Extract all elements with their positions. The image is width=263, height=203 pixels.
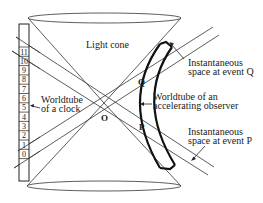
clock-tick-label: 2 bbox=[22, 131, 26, 140]
clock-worldtube: 11 10 9 8 7 6 5 4 3 2 1 0 bbox=[19, 24, 29, 181]
space-q-label-line2: space at event Q bbox=[188, 66, 255, 77]
clock-tick-label: 4 bbox=[22, 113, 26, 122]
observer-worldtube-label-line2: accelerating observer bbox=[153, 100, 239, 111]
clock-tick-label: 7 bbox=[22, 85, 26, 94]
clock-tick-label: 3 bbox=[22, 122, 26, 131]
clock-tick-label: 0 bbox=[22, 150, 26, 159]
clock-tick-label: 9 bbox=[22, 66, 26, 75]
event-q-label: Q bbox=[138, 77, 145, 87]
event-p-label: P bbox=[139, 122, 145, 132]
spacetime-diagram: 11 10 9 8 7 6 5 4 3 2 1 0 L bbox=[0, 0, 263, 203]
origin-event-label: O bbox=[101, 113, 108, 123]
clock-tick-label: 8 bbox=[22, 75, 26, 84]
clock-worldtube-label-line2: of a clock bbox=[41, 103, 80, 114]
clock-tick-label: 11 bbox=[20, 48, 28, 57]
clock-tick-label: 6 bbox=[22, 94, 26, 103]
light-cone-label: Light cone bbox=[86, 39, 130, 50]
clock-tick-label: 5 bbox=[22, 103, 26, 112]
space-p-label-line2: space at event P bbox=[188, 135, 253, 146]
